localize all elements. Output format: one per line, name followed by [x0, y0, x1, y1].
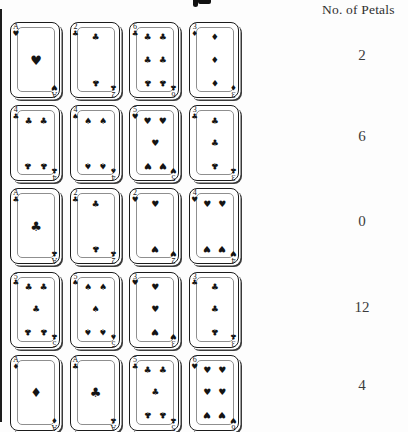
card-index-bottom-right: A♣	[110, 417, 117, 430]
card-index-bottom-right: 5♣	[51, 333, 58, 346]
club-pip-icon: ♣	[24, 327, 32, 336]
card-index-top-left: 3♥	[132, 274, 139, 287]
heart-pip-icon: ♥	[218, 366, 226, 375]
cropped-title-fragment	[192, 0, 216, 8]
card-inner-frame: ♥	[17, 27, 55, 92]
card-index-top-left: A♦	[13, 357, 20, 370]
club-pip-icon: ♣	[159, 77, 167, 86]
petals-column-header: No. of Petals	[322, 2, 406, 18]
card-index-bottom-right: 2♥	[170, 250, 177, 263]
playing-card-3-club: ♣♣♣3♣3♣	[189, 105, 239, 181]
club-suit-icon: ♣	[110, 417, 117, 423]
club-pip-icon: ♣	[92, 243, 100, 252]
club-suit-icon: ♣	[110, 84, 117, 90]
card-index-top-left: A♥	[13, 24, 20, 37]
card-index-top-left: 3♦	[191, 24, 198, 37]
card-index-top-left: 2♣	[72, 24, 79, 37]
club-suit-icon: ♣	[170, 84, 177, 90]
card-index-bottom-right: 3♣	[230, 333, 237, 346]
card-inner-frame: ♠♠♠♠	[77, 110, 115, 175]
spade-pip-icon: ♠	[99, 283, 107, 292]
playing-card-5-heart: ♥♥♥♥♥5♥5♥	[129, 105, 179, 181]
club-pip-icon: ♣	[144, 33, 152, 42]
heart-pip-icon: ♥	[30, 53, 42, 66]
playing-card-4-club: ♣♣♣♣4♣4♣	[10, 105, 60, 181]
card-inner-frame: ♦♦♦	[196, 27, 234, 92]
spade-pip-icon: ♠	[84, 116, 92, 125]
heart-suit-icon: ♥	[51, 84, 58, 90]
card-index-bottom-right: 2♣	[110, 250, 117, 263]
heart-suit-icon: ♥	[191, 364, 198, 370]
heart-pip-icon: ♥	[203, 366, 211, 375]
club-suit-icon: ♣	[170, 417, 177, 423]
card-index-top-left: 4♣	[13, 107, 20, 120]
club-pip-icon: ♣	[92, 33, 100, 42]
petal-count-value: 12	[336, 299, 388, 316]
card-inner-frame: ♥♥	[136, 193, 174, 258]
playing-card-2-heart: ♥♥2♥2♥	[129, 188, 179, 264]
card-index-bottom-right: 2♣	[110, 84, 117, 97]
playing-card-2-club: ♣♣2♣2♣	[70, 22, 120, 98]
club-suit-icon: ♣	[132, 31, 139, 37]
card-index-bottom-right: 5♠	[110, 333, 117, 346]
club-pip-icon: ♣	[144, 410, 152, 419]
playing-card-5-club: ♣♣♣♣♣5♣5♣	[129, 355, 179, 431]
club-suit-icon: ♣	[191, 114, 198, 120]
card-inner-frame: ♣♣	[77, 193, 115, 258]
card-index-bottom-right: 5♥	[170, 167, 177, 180]
card-index-bottom-right: A♣	[51, 250, 58, 263]
club-pip-icon: ♣	[211, 283, 219, 292]
diamond-suit-icon: ♦	[191, 31, 198, 37]
card-inner-frame: ♣♣♣♣	[17, 110, 55, 175]
club-pip-icon: ♣	[90, 386, 102, 399]
spade-pip-icon: ♠	[84, 327, 92, 336]
card-index-top-left: 2♥	[132, 190, 139, 203]
card-index-bottom-right: 4♥	[230, 250, 237, 263]
card-inner-frame: ♥♥♥	[136, 277, 174, 342]
club-suit-icon: ♣	[72, 197, 79, 203]
heart-pip-icon: ♥	[203, 388, 211, 397]
spade-pip-icon: ♠	[99, 116, 107, 125]
card-index-bottom-right: A♦	[51, 417, 58, 430]
club-pip-icon: ♣	[159, 55, 167, 64]
card-index-bottom-right: 4♣	[51, 167, 58, 180]
club-suit-icon: ♣	[230, 333, 237, 339]
playing-card-2-club: ♣♣2♣2♣	[70, 188, 120, 264]
spade-suit-icon: ♠	[72, 280, 79, 286]
playing-card-6-heart: ♥♥♥♥♥♥6♥6♥	[189, 355, 239, 431]
card-index-top-left: 5♠	[72, 274, 79, 287]
club-pip-icon: ♣	[211, 116, 219, 125]
club-pip-icon: ♣	[30, 219, 42, 232]
heart-pip-icon: ♥	[218, 388, 226, 397]
card-inner-frame: ♦	[17, 360, 55, 425]
glyph-fragment	[198, 0, 211, 4]
club-suit-icon: ♣	[191, 280, 198, 286]
heart-pip-icon: ♥	[151, 243, 159, 252]
card-index-top-left: A♣	[13, 190, 20, 203]
club-pip-icon: ♣	[159, 410, 167, 419]
heart-pip-icon: ♥	[151, 199, 159, 208]
diamond-pip-icon: ♦	[30, 386, 42, 399]
card-index-bottom-right: 6♥	[230, 417, 237, 430]
club-pip-icon: ♣	[40, 327, 48, 336]
heart-pip-icon: ♥	[151, 138, 159, 147]
card-index-bottom-right: 5♣	[170, 417, 177, 430]
playing-card-A-heart: ♥A♥A♥	[10, 22, 60, 98]
card-index-top-left: 3♣	[191, 107, 198, 120]
card-inner-frame: ♣	[17, 193, 55, 258]
card-inner-frame: ♣♣	[77, 27, 115, 92]
card-inner-frame: ♥♥♥♥	[196, 193, 234, 258]
card-inner-frame: ♣♣♣♣♣	[17, 277, 55, 342]
card-index-top-left: 4♥	[191, 190, 198, 203]
club-pip-icon: ♣	[211, 160, 219, 169]
heart-pip-icon: ♥	[203, 199, 211, 208]
spade-pip-icon: ♠	[84, 283, 92, 292]
club-suit-icon: ♣	[13, 197, 20, 203]
heart-suit-icon: ♥	[170, 167, 177, 173]
card-index-top-left: 5♣	[132, 357, 139, 370]
heart-pip-icon: ♥	[218, 243, 226, 252]
card-inner-frame: ♥♥♥♥♥♥	[196, 360, 234, 425]
card-index-top-left: 5♣	[13, 274, 20, 287]
heart-suit-icon: ♥	[230, 417, 237, 423]
